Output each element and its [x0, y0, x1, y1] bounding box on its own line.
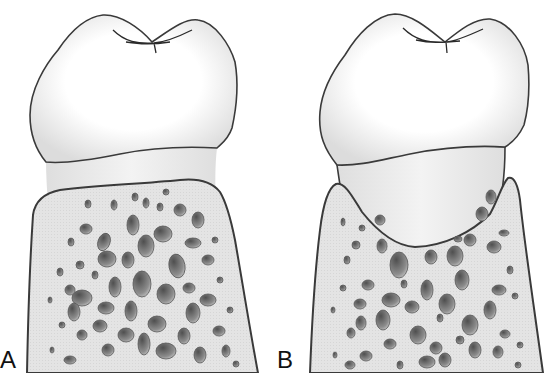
panel-b — [310, 14, 543, 373]
panel-a — [27, 15, 258, 373]
panel-label-a: A — [0, 348, 16, 372]
panel-label-b: B — [277, 348, 293, 372]
crown-b — [320, 14, 529, 165]
crown-a — [30, 15, 237, 163]
dental-illustration — [0, 0, 547, 373]
